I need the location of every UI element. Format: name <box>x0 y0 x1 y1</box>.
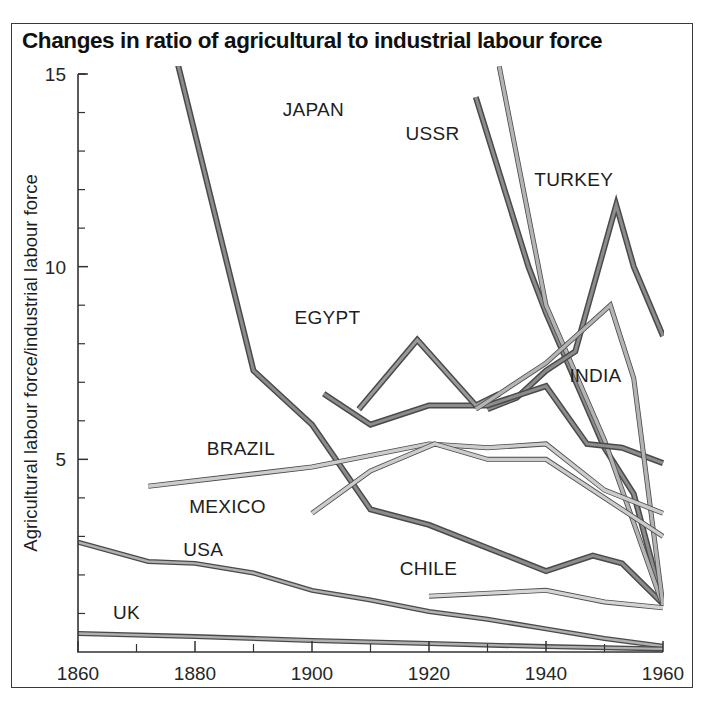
series-line-japan <box>177 62 663 603</box>
x-tick-label: 1900 <box>291 663 333 684</box>
x-tick-label: 1940 <box>525 663 567 684</box>
series-label-uk: UK <box>113 602 140 623</box>
series-label-chile: CHILE <box>400 558 457 579</box>
axis-lines <box>78 74 663 652</box>
axes-group <box>78 74 663 652</box>
series-label-ussr: USSR <box>406 123 460 144</box>
series-label-india: INDIA <box>569 365 621 386</box>
y-axis-title: Agricultural labour force/industrial lab… <box>20 174 41 551</box>
x-tick-label: 1860 <box>57 663 99 684</box>
y-axis-title-group: Agricultural labour force/industrial lab… <box>20 174 41 551</box>
series-label-japan: JAPAN <box>283 99 344 120</box>
series-lines-group <box>78 62 663 648</box>
y-tick-label: 5 <box>55 449 66 470</box>
series-label-turkey: TURKEY <box>534 169 613 190</box>
series-label-mexico: MEXICO <box>189 496 266 517</box>
series-label-egypt: EGYPT <box>294 307 360 328</box>
series-label-usa: USA <box>183 539 223 560</box>
x-tick-label: 1880 <box>174 663 216 684</box>
series-line-egypt-peak <box>359 340 499 409</box>
y-tick-label: 10 <box>45 257 66 278</box>
x-tick-label: 1920 <box>408 663 450 684</box>
series-label-brazil: BRAZIL <box>207 438 275 459</box>
chart-figure: Changes in ratio of agricultural to indu… <box>0 0 703 711</box>
series-line-chile <box>429 590 663 607</box>
x-tick-label: 1960 <box>642 663 684 684</box>
y-tick-label: 15 <box>45 64 66 85</box>
line-chart-plot: 18601880190019201940196051015 JAPANUSSRT… <box>0 0 703 711</box>
